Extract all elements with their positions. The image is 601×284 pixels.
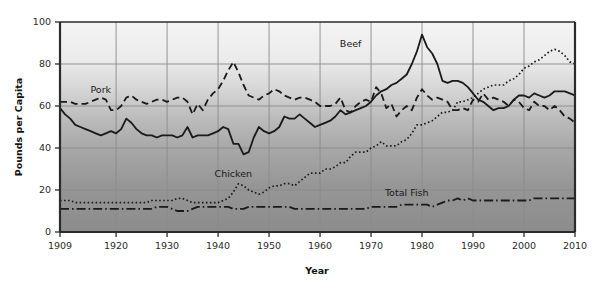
x-tick-label: 2000 — [512, 240, 536, 251]
y-tick-label: 40 — [39, 142, 51, 153]
x-tick-label: 2010 — [563, 240, 587, 251]
y-tick-label: 80 — [39, 58, 51, 69]
x-tick-label: 1920 — [104, 240, 128, 251]
series-label-chicken: Chicken — [215, 168, 253, 179]
x-tick-label: 1970 — [359, 240, 383, 251]
x-axis-title: Year — [304, 265, 329, 276]
x-tick-label: 1960 — [308, 240, 332, 251]
y-tick-label: 100 — [33, 16, 51, 27]
x-tick-label: 1909 — [48, 240, 72, 251]
x-tick-label: 1980 — [410, 240, 434, 251]
x-tick-label: 1940 — [206, 240, 230, 251]
y-tick-label: 60 — [39, 100, 51, 111]
y-tick-label: 20 — [39, 184, 51, 195]
x-tick-label: 1930 — [155, 240, 179, 251]
series-label-total-fish: Total Fish — [384, 187, 429, 198]
y-tick-label: 0 — [45, 226, 51, 237]
x-tick-label: 1950 — [257, 240, 281, 251]
x-tick-label: 1990 — [461, 240, 485, 251]
y-axis-title: Pounds per Capita — [13, 78, 24, 176]
meat-consumption-chart: 020406080100 190919201930194019501960197… — [0, 0, 601, 284]
series-label-beef: Beef — [340, 38, 362, 49]
plot-area — [60, 22, 575, 232]
series-label-pork: Pork — [90, 84, 111, 95]
chart-canvas: 020406080100 190919201930194019501960197… — [0, 0, 601, 284]
